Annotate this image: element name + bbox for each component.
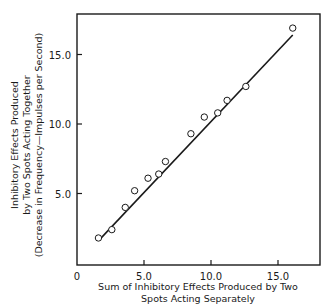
y-tick-label: 10.0 [49,119,71,130]
x-axis-title-line: Spots Acting Separately [141,293,255,304]
x-axis-title: Sum of Inhibitory Effects Produced by Tw… [98,281,298,304]
data-point [224,97,230,103]
x-tick-label: 0 [74,271,80,282]
y-tick-label: 15.0 [49,50,71,61]
data-point [290,25,296,31]
y-axis-title-line: by Two Spots Acting Together [21,75,32,215]
data-points [95,25,296,241]
data-point [162,158,168,164]
y-axis-title-line: Inhibitory Effects Produced [9,81,20,209]
x-axis-title-line: Sum of Inhibitory Effects Produced by Tw… [98,281,298,292]
data-point [122,204,128,210]
data-point [145,175,151,181]
data-point [243,83,249,89]
y-axis-title: Inhibitory Effects Producedby Two Spots … [9,33,44,258]
y-tick-label: 5.0 [55,189,71,200]
data-point [95,235,101,241]
data-point [131,188,137,194]
regression-line [100,35,293,239]
fit-line [100,35,293,239]
data-point [188,131,194,137]
data-point [156,171,162,177]
chart: 05.010.015.05.010.015.0 Sum of Inhibitor… [0,0,332,307]
data-point [215,110,221,116]
data-point [109,226,115,232]
y-axis-title-line: (Decrease in Frequency—Impulses per Seco… [33,33,44,258]
data-point [201,114,207,120]
